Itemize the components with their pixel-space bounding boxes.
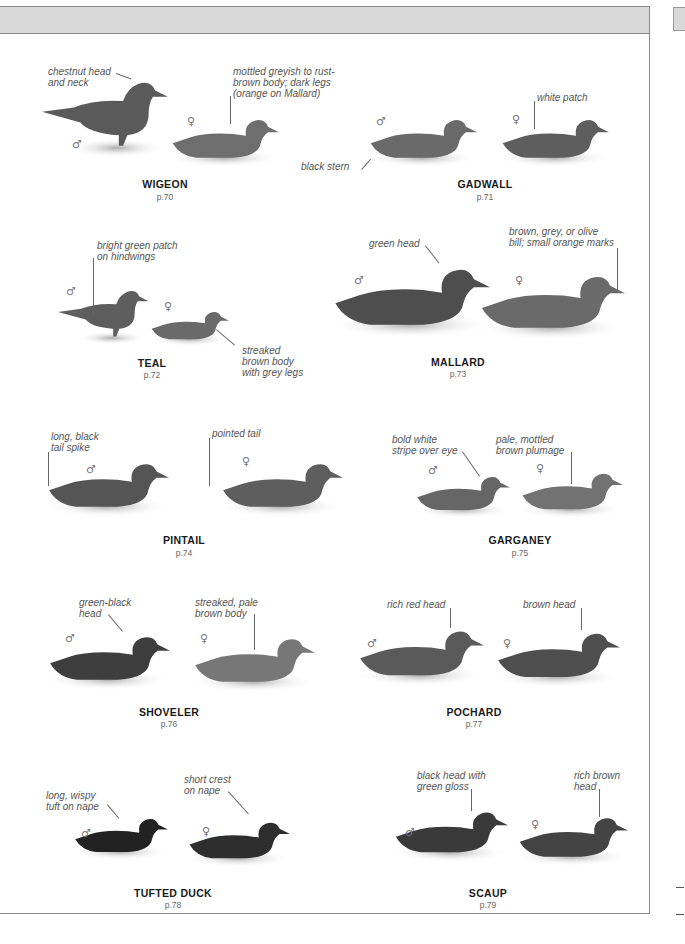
header-band (0, 7, 649, 34)
pochard-female-illustration (494, 620, 620, 692)
leader-line (254, 614, 255, 650)
male-symbol: ♂ (367, 637, 377, 650)
page-reference: p.75 (440, 548, 600, 558)
leader-line (534, 101, 535, 129)
page-reference: p.76 (89, 719, 249, 729)
annotation: brown, grey, or olive bill; small orange… (509, 226, 614, 248)
annotation: rich red head (387, 599, 445, 610)
annotation: long, wispy tuft on nape (46, 790, 99, 812)
annotation: long, black tail spike (51, 431, 99, 453)
male-symbol: ♂ (428, 464, 438, 477)
female-symbol: ♀ (503, 637, 511, 650)
female-symbol: ♀ (531, 818, 539, 831)
leader-line (209, 438, 210, 486)
tufted-duck-female-illustration (186, 812, 290, 870)
annotation: black head with green gloss (417, 770, 486, 792)
male-symbol: ♂ (66, 285, 76, 298)
wigeon-female-illustration (160, 112, 288, 167)
teal-female-illustration (144, 306, 234, 346)
annotation: bold white stripe over eye (392, 434, 458, 456)
shoveler-male-illustration (44, 628, 172, 690)
leader-line (471, 789, 472, 811)
leader-line (230, 96, 231, 124)
adjacent-page-rule (676, 914, 684, 915)
page-reference: p.71 (405, 192, 565, 202)
leader-line (617, 248, 618, 292)
annotation: brown head (523, 599, 575, 610)
adjacent-page-rule (676, 887, 684, 888)
female-symbol: ♀ (200, 632, 208, 645)
annotation: streaked brown body with grey legs (242, 345, 303, 378)
female-symbol: ♀ (242, 455, 250, 468)
species-name: WIGEON (85, 178, 245, 190)
leader-line (581, 608, 582, 630)
annotation: green-black head (79, 597, 131, 619)
page-reference: p.72 (72, 370, 232, 380)
pintail-male-illustration (18, 455, 196, 517)
female-symbol: ♀ (187, 115, 195, 128)
species-name: PINTAIL (104, 534, 264, 546)
male-symbol: ♂ (81, 827, 91, 840)
leader-line (571, 452, 572, 484)
mallard-male-illustration (330, 258, 490, 338)
male-symbol: ♂ (72, 138, 82, 151)
male-symbol: ♂ (376, 115, 386, 128)
mallard-female-illustration (476, 266, 626, 340)
garganey-male-illustration (412, 470, 512, 518)
annotation: pointed tail (212, 428, 260, 439)
annotation: white patch (537, 92, 588, 103)
adjacent-page-header-edge (673, 7, 685, 31)
leader-line (93, 258, 94, 314)
species-name: TEAL (72, 357, 232, 369)
page-reference: p.79 (408, 900, 568, 910)
male-symbol: ♂ (86, 463, 96, 476)
species-name: TUFTED DUCK (93, 887, 253, 899)
page-reference: p.74 (104, 548, 264, 558)
female-symbol: ♀ (202, 825, 210, 838)
annotation: black stern (301, 161, 349, 172)
female-symbol: ♀ (512, 113, 520, 126)
leader-line (450, 608, 451, 628)
male-symbol: ♂ (405, 826, 415, 839)
gadwall-female-illustration (490, 112, 618, 167)
female-symbol: ♀ (515, 274, 523, 287)
pintail-female-illustration (204, 455, 358, 517)
species-name: GADWALL (405, 178, 565, 190)
female-symbol: ♀ (536, 462, 544, 475)
leader-line (599, 789, 600, 817)
species-name: POCHARD (394, 706, 554, 718)
page-reference: p.70 (85, 192, 245, 202)
annotation: short crest on nape (184, 774, 231, 796)
pochard-male-illustration (356, 620, 484, 688)
annotation: bright green patch on hindwings (97, 240, 178, 262)
annotation: streaked, pale brown body (195, 597, 258, 619)
annotation: chestnut head and neck (48, 66, 111, 88)
page-reference: p.73 (378, 369, 538, 379)
female-symbol: ♀ (164, 300, 172, 313)
scaup-female-illustration (516, 808, 628, 868)
species-name: GARGANEY (440, 534, 600, 546)
leader-line (48, 452, 49, 486)
annotation: pale, mottled brown plumage (496, 434, 564, 456)
annotation: green head (369, 238, 420, 249)
page-reference: p.77 (394, 719, 554, 729)
species-name: SHOVELER (89, 706, 249, 718)
male-symbol: ♂ (65, 632, 75, 645)
annotation: rich brown head (574, 770, 620, 792)
species-name: SCAUP (408, 887, 568, 899)
annotation: mottled greyish to rust- brown body; dar… (233, 66, 335, 99)
species-name: MALLARD (378, 356, 538, 368)
page-reference: p.78 (93, 900, 253, 910)
male-symbol: ♂ (354, 274, 364, 287)
